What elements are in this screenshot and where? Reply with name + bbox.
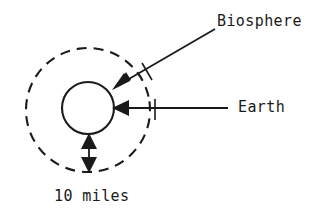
biosphere-leader-line (122, 29, 215, 83)
biosphere-leader-group (112, 29, 215, 90)
scale-arrow-group (81, 133, 97, 173)
earth-leader-group (112, 99, 228, 120)
scale-arrowhead-up-icon (81, 133, 97, 149)
earth-body-circle (62, 82, 114, 134)
earth-label: Earth (238, 100, 285, 115)
scale-label: 10 miles (54, 189, 129, 204)
biosphere-label: Biosphere (217, 14, 302, 29)
earth-arrowhead-icon (112, 100, 129, 116)
biosphere-earth-diagram: Biosphere Earth 10 miles (0, 0, 325, 214)
scale-arrowhead-down-icon (81, 157, 97, 173)
